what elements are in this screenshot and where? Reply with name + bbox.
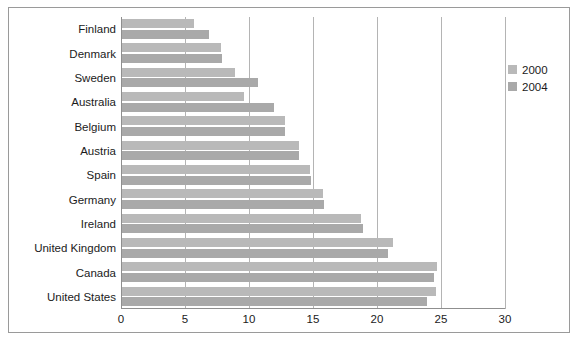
bar-united-kingdom-2004 — [122, 249, 388, 258]
bar-austria-2000 — [122, 141, 299, 150]
x-tick-label-20: 20 — [371, 313, 384, 325]
category-label-austria: Austria — [8, 145, 116, 157]
chart-figure: FinlandDenmarkSwedenAustraliaBelgiumAust… — [0, 0, 580, 348]
bar-austria-2004 — [122, 151, 299, 160]
bar-finland-2004 — [122, 30, 209, 39]
category-label-australia: Australia — [8, 96, 116, 108]
category-label-belgium: Belgium — [8, 121, 116, 133]
bar-group — [122, 91, 506, 115]
bar-united-kingdom-2000 — [122, 238, 393, 247]
x-tick-label-25: 25 — [435, 313, 448, 325]
chart-legend: 20002004 — [508, 62, 564, 96]
bar-belgium-2004 — [122, 127, 285, 136]
bar-canada-2004 — [122, 273, 434, 282]
legend-entry-2000: 2000 — [508, 62, 564, 77]
bar-group — [122, 164, 506, 188]
bar-group — [122, 286, 506, 310]
bar-denmark-2000 — [122, 43, 221, 52]
bar-ireland-2004 — [122, 224, 363, 233]
legend-swatch-2004 — [508, 82, 517, 91]
bar-canada-2000 — [122, 262, 437, 271]
legend-label-2000: 2000 — [522, 64, 548, 76]
x-tick-label-10: 10 — [243, 313, 256, 325]
bar-ireland-2000 — [122, 214, 361, 223]
x-axis-tick-labels: 051015202530 — [121, 313, 505, 331]
bar-group — [122, 42, 506, 66]
bar-group — [122, 140, 506, 164]
category-label-united-kingdom: United Kingdom — [8, 242, 116, 254]
category-label-finland: Finland — [8, 23, 116, 35]
bar-spain-2004 — [122, 176, 311, 185]
bar-spain-2000 — [122, 165, 310, 174]
bar-group — [122, 237, 506, 261]
legend-label-2004: 2004 — [522, 81, 548, 93]
legend-entry-2004: 2004 — [508, 79, 564, 94]
bar-group — [122, 67, 506, 91]
category-label-sweden: Sweden — [8, 72, 116, 84]
x-tick-label-0: 0 — [118, 313, 124, 325]
category-label-denmark: Denmark — [8, 48, 116, 60]
category-axis-labels: FinlandDenmarkSwedenAustraliaBelgiumAust… — [4, 17, 116, 309]
bar-group — [122, 188, 506, 212]
bar-group — [122, 213, 506, 237]
category-label-spain: Spain — [8, 169, 116, 181]
category-label-germany: Germany — [8, 194, 116, 206]
bar-united-states-2000 — [122, 287, 436, 296]
x-tick-label-30: 30 — [499, 313, 512, 325]
bar-australia-2000 — [122, 92, 244, 101]
category-label-ireland: Ireland — [8, 218, 116, 230]
x-tick-label-15: 15 — [307, 313, 320, 325]
legend-swatch-2000 — [508, 65, 517, 74]
plot-area — [121, 17, 505, 309]
category-label-united-states: United States — [8, 291, 116, 303]
bar-group — [122, 115, 506, 139]
x-tick-label-5: 5 — [182, 313, 188, 325]
category-label-canada: Canada — [8, 267, 116, 279]
bar-group — [122, 18, 506, 42]
bar-belgium-2000 — [122, 116, 285, 125]
bar-united-states-2004 — [122, 297, 427, 306]
bar-denmark-2004 — [122, 54, 222, 63]
bar-group — [122, 261, 506, 285]
bar-germany-2000 — [122, 189, 323, 198]
bar-finland-2000 — [122, 19, 194, 28]
bar-australia-2004 — [122, 103, 274, 112]
bar-sweden-2000 — [122, 68, 235, 77]
bar-sweden-2004 — [122, 78, 258, 87]
bar-germany-2004 — [122, 200, 324, 209]
